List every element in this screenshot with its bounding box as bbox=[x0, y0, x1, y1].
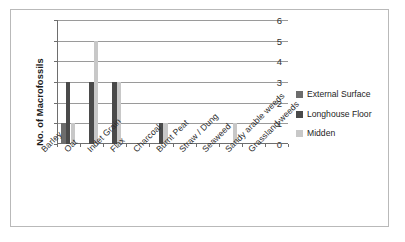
chart-figure: No. of Macrofossils 0123456 BarleyOatInd… bbox=[0, 0, 405, 242]
legend-label: Midden bbox=[307, 129, 335, 138]
legend-swatch-icon bbox=[296, 111, 303, 118]
legend-item[interactable]: Midden bbox=[296, 128, 396, 139]
legend-item[interactable]: Longhouse Floor bbox=[296, 109, 396, 120]
legend-swatch-icon bbox=[296, 130, 303, 137]
x-axis-labels: BarleyOatIndet GrainFlaxCharcoalBurnt Pe… bbox=[57, 147, 357, 222]
bar bbox=[89, 82, 93, 144]
y-tick-label: 3 bbox=[277, 77, 282, 88]
legend-item[interactable]: External Surface bbox=[296, 89, 396, 100]
legend-label: External Surface bbox=[307, 90, 371, 99]
bar bbox=[112, 82, 116, 144]
legend-swatch-icon bbox=[296, 91, 303, 98]
gridline bbox=[57, 20, 288, 21]
y-tick-label: 5 bbox=[277, 35, 282, 46]
chart-legend: External SurfaceLonghouse FloorMidden bbox=[296, 89, 396, 148]
gridline bbox=[57, 61, 288, 62]
gridline bbox=[57, 41, 288, 42]
bar bbox=[66, 82, 70, 144]
y-tick-label: 6 bbox=[277, 15, 282, 26]
bar bbox=[94, 41, 98, 144]
legend-label: Longhouse Floor bbox=[307, 110, 372, 119]
y-tick-label: 4 bbox=[277, 56, 282, 67]
y-axis-line bbox=[57, 20, 58, 144]
